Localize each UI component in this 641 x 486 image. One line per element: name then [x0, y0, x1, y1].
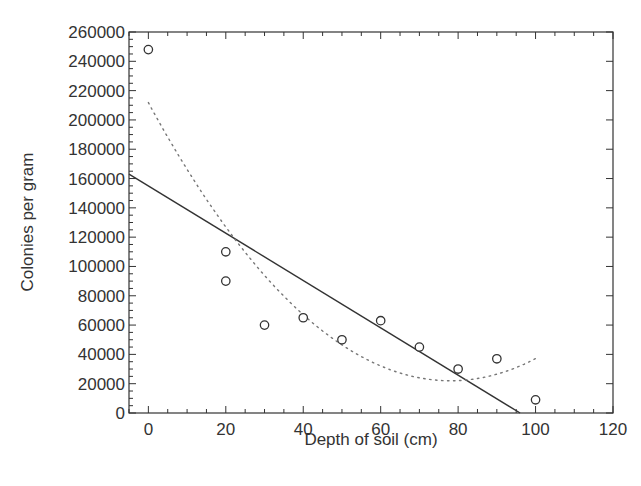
data-point-marker	[299, 314, 307, 322]
fit-lines	[129, 103, 536, 413]
y-tick-label: 160000	[68, 170, 125, 189]
y-tick-label: 0	[116, 404, 125, 423]
data-point-marker	[222, 277, 230, 285]
data-point-marker	[493, 355, 501, 363]
y-tick-label: 100000	[68, 257, 125, 276]
data-point-marker	[222, 248, 230, 256]
chart-canvas: 0200004000060000800001000001200001400001…	[0, 0, 641, 486]
y-tick-label: 40000	[78, 345, 125, 364]
y-tick-label: 200000	[68, 111, 125, 130]
y-tick-label: 60000	[78, 316, 125, 335]
y-tick-label: 120000	[68, 228, 125, 247]
data-point-marker	[144, 45, 152, 53]
y-tick-label: 20000	[78, 375, 125, 394]
y-tick-label: 220000	[68, 82, 125, 101]
x-axis-title: Depth of soil (cm)	[304, 430, 437, 449]
data-point-marker	[376, 316, 384, 324]
y-tick-label: 80000	[78, 287, 125, 306]
data-point-marker	[415, 343, 423, 351]
x-tick-label: 100	[521, 420, 549, 439]
data-point-marker	[260, 321, 268, 329]
x-tick-label: 80	[449, 420, 468, 439]
y-tick-label: 140000	[68, 199, 125, 218]
y-tick-label: 240000	[68, 52, 125, 71]
x-tick-label: 0	[144, 420, 153, 439]
x-tick-label: 120	[599, 420, 627, 439]
axis-ticks	[129, 32, 613, 413]
plot-frame	[129, 32, 613, 413]
linear-fit-line	[129, 174, 520, 413]
data-point-marker	[531, 396, 539, 404]
y-axis-tick-labels: 0200004000060000800001000001200001400001…	[68, 23, 125, 423]
y-axis-title: Colonies per gram	[18, 153, 37, 292]
x-tick-label: 20	[216, 420, 235, 439]
data-points	[144, 45, 540, 404]
y-tick-label: 180000	[68, 140, 125, 159]
data-point-marker	[454, 365, 462, 373]
y-tick-label: 260000	[68, 23, 125, 42]
data-point-marker	[338, 336, 346, 344]
